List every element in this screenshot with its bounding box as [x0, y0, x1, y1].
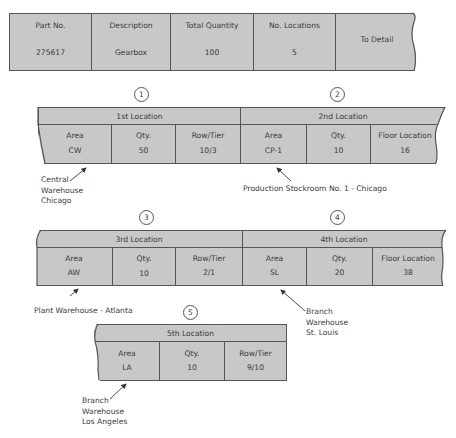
loc5-qty-cell: Qty. 10 [160, 342, 225, 380]
loc5-rowtier-cell: Row/Tier 9/10 [225, 342, 286, 380]
loc2-floor-cell: Floor Location 16 [371, 125, 445, 163]
loc2-area-cell: Area CP-1 [241, 125, 307, 163]
loc1-rowtier-label: Row/Tier [176, 131, 240, 140]
loc3-qty-value: 10 [113, 269, 175, 278]
loc5-area-label: Area [95, 349, 159, 358]
loc3-qty-cell: Qty. 10 [113, 248, 176, 285]
loc5-qty-label: Qty. [160, 349, 224, 358]
loc3-area-cell: Area AW [36, 248, 113, 285]
loc1-area-label: Area [39, 131, 111, 140]
location-4-note: Branch Warehouse St. Louis [306, 307, 348, 339]
location-5-title: 5th Location [95, 325, 286, 341]
location-5-fields: Area LA Qty. 10 Row/Tier 9/10 [95, 342, 286, 380]
total-quantity-cell: Total Quantity 100 [171, 14, 254, 70]
loc1-area-value: CW [39, 146, 111, 155]
loc2-qty-value: 10 [307, 146, 370, 155]
location-number-5: 5 [183, 305, 198, 320]
total-quantity-value: 100 [171, 48, 253, 57]
loc1-area-cell: Area CW [39, 125, 112, 163]
location-3-note: Plant Warehouse - Atlanta [34, 306, 133, 317]
location-number-3: 3 [139, 210, 154, 225]
loc4-area-value: SL [243, 268, 306, 277]
loc1-qty-label: Qty. [112, 131, 175, 140]
locations-3-4-fields: Area AW Qty. 10 Row/Tier 2/1 Area SL Qty… [36, 248, 445, 285]
location-5-card: 5th Location Area LA Qty. 10 Row/Tier 9/… [94, 324, 287, 381]
no-locations-value: 5 [254, 48, 335, 57]
loc1-qty-cell: Qty. 50 [112, 125, 176, 163]
location-5-note: Branch Warehouse Los Angeles [82, 396, 127, 428]
loc3-area-value: AW [36, 268, 112, 277]
description-value: Gearbox [92, 48, 170, 57]
location-number-4: 4 [330, 210, 345, 225]
loc5-rowtier-label: Row/Tier [225, 349, 286, 358]
location-number-1: 1 [134, 87, 149, 102]
loc4-qty-label: Qty. [307, 254, 372, 263]
loc2-qty-cell: Qty. 10 [307, 125, 371, 163]
loc1-qty-value: 50 [112, 146, 175, 155]
part-no-cell: Part No. 275617 [10, 14, 92, 70]
locations-3-4-header: 3rd Location 4th Location [36, 231, 445, 248]
loc5-rowtier-value: 9/10 [225, 363, 286, 372]
loc2-area-label: Area [241, 131, 306, 140]
locations-1-2-header: 1st Location 2nd Location [39, 108, 445, 125]
arrow-loc2 [277, 168, 291, 181]
loc2-floor-label: Floor Location [371, 131, 439, 140]
loc3-rowtier-label: Row/Tier [176, 254, 242, 263]
no-locations-label: No. Locations [254, 21, 335, 30]
loc2-floor-value: 16 [371, 146, 439, 155]
part-no-value: 275617 [10, 48, 91, 57]
loc4-floor-label: Floor Location [373, 254, 443, 263]
loc2-qty-label: Qty. [307, 131, 370, 140]
location-2-title: 2nd Location [241, 108, 445, 124]
description-label: Description [92, 21, 170, 30]
loc3-area-label: Area [36, 254, 112, 263]
location-2-note: Production Stockroom No. 1 - Chicago [243, 184, 387, 195]
loc1-rowtier-cell: Row/Tier 10/3 [176, 125, 241, 163]
to-detail-cell: To Detail [336, 14, 418, 70]
loc1-rowtier-value: 10/3 [176, 146, 240, 155]
loc4-floor-value: 38 [373, 268, 443, 277]
locations-1-2-card: 1st Location 2nd Location Area CW Qty. 5… [38, 107, 446, 164]
to-detail-label: To Detail [336, 35, 418, 44]
loc4-qty-value: 20 [307, 268, 372, 277]
location-3-title: 3rd Location [36, 231, 243, 247]
part-master-card: Part No. 275617 Description Gearbox Tota… [9, 13, 419, 71]
locations-3-4-card: 3rd Location 4th Location Area AW Qty. 1… [35, 230, 446, 286]
loc5-area-value: LA [95, 363, 159, 372]
locations-1-2-fields: Area CW Qty. 50 Row/Tier 10/3 Area CP-1 … [39, 125, 445, 163]
location-1-title: 1st Location [39, 108, 241, 124]
location-4-title: 4th Location [243, 231, 445, 247]
no-locations-cell: No. Locations 5 [254, 14, 336, 70]
location-number-2: 2 [330, 87, 345, 102]
arrow-loc4 [281, 290, 305, 311]
arrow-loc3 [70, 289, 78, 296]
loc5-qty-value: 10 [160, 363, 224, 372]
total-quantity-label: Total Quantity [171, 21, 253, 30]
location-1-note: Central Warehouse Chicago [41, 175, 83, 207]
loc2-area-value: CP-1 [241, 146, 306, 155]
loc4-area-label: Area [243, 254, 306, 263]
loc4-floor-cell: Floor Location 38 [373, 248, 445, 285]
loc5-area-cell: Area LA [95, 342, 160, 380]
location-5-header: 5th Location [95, 325, 286, 342]
loc4-area-cell: Area SL [243, 248, 307, 285]
loc4-qty-cell: Qty. 20 [307, 248, 373, 285]
description-cell: Description Gearbox [92, 14, 171, 70]
part-no-label: Part No. [10, 21, 91, 30]
loc3-qty-label: Qty. [113, 254, 175, 263]
loc3-rowtier-cell: Row/Tier 2/1 [176, 248, 243, 285]
loc3-rowtier-value: 2/1 [176, 268, 242, 277]
